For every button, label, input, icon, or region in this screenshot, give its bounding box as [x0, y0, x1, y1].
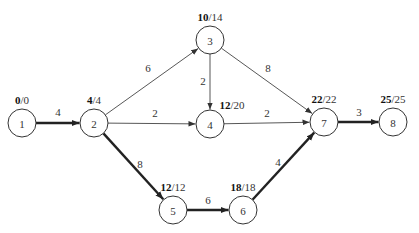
node-3: 3 [196, 26, 224, 54]
node-times-4: 12/20 [219, 99, 245, 111]
node-times-6: 18/18 [230, 181, 256, 193]
node-label: 7 [321, 117, 327, 129]
node-times-1: 0/0 [15, 94, 30, 106]
edge-weight-3-7: 8 [265, 62, 271, 74]
earliest-time: 18 [230, 181, 242, 193]
node-1: 1 [8, 109, 36, 137]
node-times-2: 4/4 [87, 94, 102, 106]
node-label: 2 [91, 118, 97, 130]
latest-time: 12 [175, 181, 186, 193]
edge-weight-2-5: 8 [137, 158, 143, 170]
edge-6-7 [252, 133, 314, 200]
edge-2-5 [103, 133, 163, 199]
node-times-5: 12/12 [160, 181, 185, 193]
latest-time: 4 [96, 94, 102, 106]
edge-weight-2-3: 6 [145, 62, 151, 74]
earliest-time: 25 [380, 93, 392, 105]
latest-time: 14 [212, 11, 224, 23]
edge-4-7 [224, 122, 310, 124]
node-label: 4 [207, 119, 213, 131]
edge-weight-3-4: 2 [200, 75, 206, 87]
node-times-7: 22/22 [311, 93, 336, 105]
network-diagram: 4628282643 12345678 0/04/410/1412/2012/1… [0, 0, 419, 233]
node-5: 5 [159, 196, 187, 224]
edge-weight-6-7: 4 [275, 156, 281, 168]
node-8: 8 [379, 108, 407, 136]
edge-weight-2-4: 2 [152, 107, 158, 119]
latest-time: 22 [326, 93, 337, 105]
node-label: 3 [207, 35, 213, 47]
node-2: 2 [80, 109, 108, 137]
edge-weight-7-8: 3 [356, 106, 362, 118]
earliest-time: 22 [311, 93, 323, 105]
edge-weight-4-7: 2 [264, 107, 270, 119]
earliest-time: 12 [160, 181, 172, 193]
earliest-time: 10 [197, 11, 209, 23]
node-label: 8 [390, 117, 396, 129]
edge-weight-1-2: 4 [55, 106, 61, 118]
edge-2-3 [105, 48, 198, 114]
latest-time: 18 [245, 181, 257, 193]
node-label: 1 [19, 118, 25, 130]
latest-time: 20 [234, 99, 246, 111]
edge-weight-5-6: 6 [205, 194, 211, 206]
node-7: 7 [310, 108, 338, 136]
node-label: 5 [170, 205, 176, 217]
latest-time: 25 [395, 93, 407, 105]
node-label: 6 [240, 205, 246, 217]
node-times-3: 10/14 [197, 11, 223, 23]
node-6: 6 [229, 196, 257, 224]
node-times-8: 25/25 [380, 93, 406, 105]
earliest-time: 12 [219, 99, 231, 111]
latest-time: 0 [24, 94, 30, 106]
node-4: 4 [196, 110, 224, 138]
edge-2-4 [108, 123, 196, 124]
